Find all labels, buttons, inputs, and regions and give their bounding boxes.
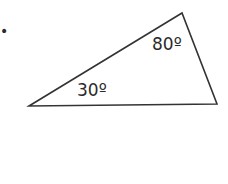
triangle-shape — [29, 13, 217, 106]
triangle-figure — [0, 0, 228, 184]
angle-label-30: 30º — [77, 82, 107, 99]
angle-label-80: 80º — [152, 36, 182, 53]
